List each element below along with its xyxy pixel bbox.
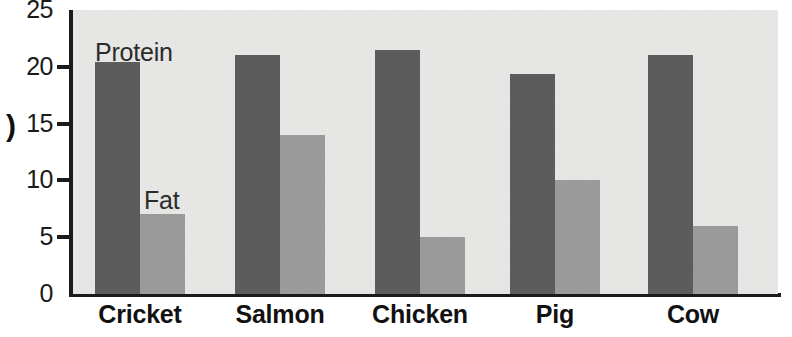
y-axis-tick-mark — [57, 122, 70, 126]
bar-chart: ) 0510152025 Protein Fat CricketSalmonCh… — [0, 0, 792, 337]
bar-texture — [375, 50, 420, 294]
bar-texture — [140, 214, 185, 294]
y-axis-tick-label: 10 — [1, 165, 53, 194]
bar-texture — [555, 180, 600, 294]
y-axis-tick-label: 25 — [1, 0, 53, 24]
bar-texture — [95, 62, 140, 294]
bar-cow-protein — [648, 55, 693, 294]
y-axis-tick-label: 20 — [1, 52, 53, 81]
y-axis-tick-label: 5 — [1, 222, 53, 251]
bar-texture — [648, 55, 693, 294]
plot-area: Protein Fat — [73, 10, 778, 294]
series-annotation-fat: Fat — [144, 186, 180, 215]
bar-texture — [693, 226, 738, 294]
bar-pig-fat — [555, 180, 600, 294]
bar-texture — [420, 237, 465, 294]
y-axis-tick-label: 15 — [1, 109, 53, 138]
bar-cricket-fat — [140, 214, 185, 294]
bar-cricket-protein — [95, 62, 140, 294]
bar-salmon-protein — [235, 55, 280, 294]
y-axis-tick-label: 0 — [1, 279, 53, 308]
y-axis-tick-mark — [57, 235, 70, 239]
bar-texture — [280, 135, 325, 294]
y-axis-tick-mark — [57, 178, 70, 182]
category-label-cow: Cow — [603, 300, 783, 329]
y-axis-tick-mark — [57, 65, 70, 69]
bar-cow-fat — [693, 226, 738, 294]
series-annotation-protein: Protein — [95, 38, 173, 67]
bar-texture — [235, 55, 280, 294]
bar-texture — [510, 74, 555, 294]
bar-chicken-protein — [375, 50, 420, 294]
bar-pig-protein — [510, 74, 555, 294]
bar-salmon-fat — [280, 135, 325, 294]
bar-chicken-fat — [420, 237, 465, 294]
y-axis-tick-labels: 0510152025 — [0, 0, 53, 337]
